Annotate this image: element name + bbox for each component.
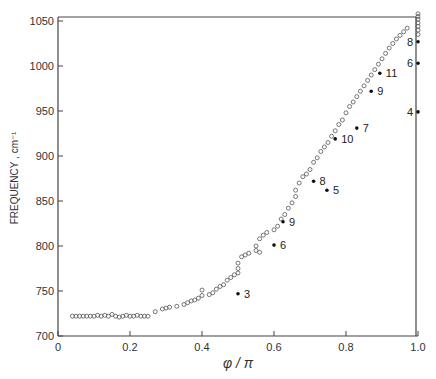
calculated-point	[398, 33, 402, 37]
y-axis-title: FREQUENCY , cm⁻¹	[9, 131, 20, 224]
calculated-point	[153, 310, 157, 314]
calculated-point	[340, 118, 344, 122]
plot-frame	[58, 17, 418, 336]
calculated-point	[294, 195, 298, 199]
calculated-point	[358, 89, 362, 93]
x-tick-label: 0.4	[194, 341, 209, 353]
observed-point	[312, 179, 316, 183]
calculated-point	[348, 105, 352, 109]
y-tick-label: 750	[36, 285, 54, 297]
axis-ticks: 00.20.40.60.81.0700750800850900950100010…	[30, 15, 426, 353]
y-tick-label: 950	[36, 105, 54, 117]
observed-point	[416, 40, 420, 44]
calculated-point	[330, 134, 334, 138]
observed-points: 36985107911468	[236, 36, 420, 300]
calculated-point	[333, 129, 337, 133]
calculated-point	[236, 267, 240, 271]
calculated-point	[196, 296, 200, 300]
x-tick-label: 1.0	[410, 341, 425, 353]
calculated-point	[402, 30, 406, 34]
x-tick-label: 0.2	[122, 341, 137, 353]
calculated-point	[229, 276, 233, 280]
point-label: 9	[289, 216, 295, 228]
calculated-point	[265, 231, 269, 235]
calculated-point	[225, 278, 229, 282]
point-label: 7	[363, 122, 369, 134]
calculated-point	[175, 304, 179, 308]
x-axis-title: φ / π	[223, 355, 254, 371]
observed-point	[416, 62, 420, 66]
point-label: 9	[377, 85, 383, 97]
calculated-point	[384, 51, 388, 55]
point-label: 8	[407, 36, 413, 48]
calculated-point	[211, 291, 215, 295]
calculated-point	[236, 271, 240, 275]
calculated-point	[254, 244, 258, 248]
point-label: 10	[341, 133, 353, 145]
calculated-point	[355, 95, 359, 99]
calculated-point	[200, 294, 204, 298]
observed-point	[281, 220, 285, 224]
calculated-point	[283, 213, 287, 217]
observed-point	[369, 89, 373, 93]
calculated-point	[286, 206, 290, 210]
calculated-point	[376, 62, 380, 66]
calculated-point	[337, 123, 341, 127]
observed-point	[416, 110, 420, 114]
observed-point	[272, 243, 276, 247]
point-label: 5	[333, 184, 339, 196]
calculated-point	[405, 26, 409, 30]
calculated-point	[236, 261, 240, 265]
y-tick-label: 1050	[30, 15, 54, 27]
calculated-point	[301, 175, 305, 179]
calculated-point	[351, 100, 355, 104]
x-tick-label: 0	[55, 341, 61, 353]
calculated-point	[394, 37, 398, 41]
calculated-point	[297, 181, 301, 185]
calculated-point	[362, 84, 366, 88]
calculated-point	[272, 228, 276, 232]
point-label: 4	[407, 106, 413, 118]
calculated-point	[258, 237, 262, 241]
point-label: 11	[386, 67, 397, 79]
calculated-point	[416, 12, 420, 16]
y-tick-label: 700	[36, 330, 54, 342]
calculated-point	[290, 201, 294, 205]
y-tick-label: 800	[36, 240, 54, 252]
calculated-point	[319, 150, 323, 154]
calculated-point	[294, 188, 298, 192]
observed-point	[236, 292, 240, 296]
calculated-point	[315, 156, 319, 160]
point-label: 3	[244, 288, 250, 300]
calculated-point	[322, 145, 326, 149]
calculated-point	[366, 78, 370, 82]
scatter-chart: 00.20.40.60.81.0700750800850900950100010…	[0, 0, 436, 379]
calculated-point	[326, 141, 330, 145]
calculated-point	[312, 160, 316, 164]
calculated-point	[380, 57, 384, 61]
calculated-point	[200, 288, 204, 292]
calculated-points	[70, 12, 420, 319]
calculated-point	[261, 233, 265, 237]
calculated-point	[344, 111, 348, 115]
y-tick-label: 850	[36, 195, 54, 207]
y-tick-label: 900	[36, 150, 54, 162]
x-tick-label: 0.8	[338, 341, 353, 353]
calculated-point	[369, 73, 373, 77]
point-label: 6	[280, 239, 286, 251]
calculated-point	[247, 251, 251, 255]
point-label: 6	[407, 57, 413, 69]
observed-point	[378, 71, 382, 75]
calculated-point	[276, 224, 280, 228]
x-tick-label: 0.6	[266, 341, 281, 353]
calculated-point	[304, 172, 308, 176]
point-label: 8	[320, 175, 326, 187]
observed-point	[355, 126, 359, 130]
calculated-point	[308, 168, 312, 172]
y-tick-label: 1000	[30, 60, 54, 72]
calculated-point	[373, 68, 377, 72]
calculated-point	[214, 287, 218, 291]
calculated-point	[222, 283, 226, 287]
observed-point	[333, 137, 337, 141]
calculated-point	[258, 250, 262, 254]
